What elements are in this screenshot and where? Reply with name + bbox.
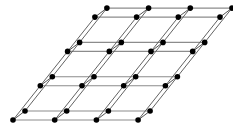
lattice-node [175,74,181,80]
lattice-node [148,49,154,55]
lattice-edge-depth [55,17,137,120]
lattice-node [94,117,100,123]
lattice-node [92,14,98,20]
lattice-edge-depth [108,8,190,111]
lattice-node [107,49,113,55]
lattice-edge-depth [138,17,220,120]
lattice-edge-depth [67,8,149,111]
lattice-node [176,14,182,20]
lattice-canvas [0,0,233,138]
lattice-node [133,74,139,80]
lattice-node [50,74,56,80]
horizontal-edge-group [13,8,232,120]
lattice-node [217,14,223,20]
lattice-node [160,40,166,46]
lattice-edge-depth [96,17,178,120]
lattice-node [38,83,44,89]
lattice-node [119,40,125,46]
lattice-node [65,49,71,55]
lattice-node [104,5,110,11]
lattice-edge-depth [150,8,232,111]
lattice-node [190,49,196,55]
lattice-node [188,5,194,11]
lattice-node [52,117,58,123]
lattice-node [135,117,141,123]
lattice-node [202,40,208,46]
lattice-diagram [0,0,233,138]
lattice-edge-depth [25,8,107,111]
lattice-node [146,5,152,11]
lattice-node [64,108,70,114]
lattice-node-group [10,5,233,122]
depth-edge-group [13,8,232,120]
lattice-node [106,108,112,114]
vertical-edge-group [13,8,232,120]
lattice-node [10,117,16,123]
lattice-node [77,40,83,46]
lattice-node [147,108,153,114]
lattice-node [22,108,28,114]
lattice-edge-depth [13,17,95,120]
lattice-node [79,83,85,89]
lattice-node [134,14,140,20]
lattice-node [91,74,97,80]
lattice-node [121,83,127,89]
lattice-node [163,83,169,89]
